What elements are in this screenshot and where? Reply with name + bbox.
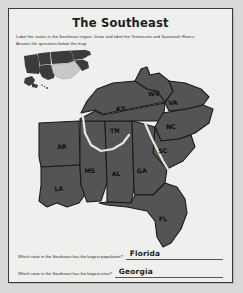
- southeast-map: AR LA MS AL TN KY WV VA NC SC GA FL: [17, 61, 226, 251]
- state-label-FL: FL: [159, 215, 168, 223]
- state-label-AR: AR: [57, 143, 67, 151]
- question-row-2: Which state in the Southeast has the lar…: [9, 266, 232, 278]
- instructions-block: Label the states in the Southeast region…: [9, 34, 232, 47]
- state-label-NC: NC: [166, 123, 177, 131]
- question-1-answer: Florida: [130, 249, 161, 258]
- question-row-1: Which state in the Southeast has the lar…: [9, 248, 232, 260]
- state-label-SC: SC: [158, 147, 168, 155]
- instruction-line-1: Label the states in the Southeast region…: [16, 34, 225, 41]
- state-label-TN: TN: [110, 127, 120, 135]
- questions-section: Which state in the Southeast has the lar…: [9, 248, 232, 283]
- question-2-answer-field[interactable]: Georgia: [115, 266, 223, 278]
- state-label-AL: AL: [111, 170, 120, 177]
- question-1-answer-field[interactable]: Florida: [126, 248, 223, 260]
- page-title: The Southeast: [9, 16, 232, 30]
- state-label-KY: KY: [116, 105, 126, 113]
- question-2-answer: Georgia: [119, 267, 153, 276]
- state-label-LA: LA: [54, 185, 63, 192]
- state-label-GA: GA: [137, 167, 148, 175]
- state-label-WV: WV: [148, 90, 160, 98]
- question-1-prompt: Which state in the Southeast has the lar…: [18, 254, 123, 261]
- state-label-VA: VA: [168, 99, 178, 107]
- state-label-MS: MS: [84, 167, 95, 175]
- question-2-prompt: Which state in the Southeast has the lar…: [18, 271, 112, 278]
- worksheet-sheet: The Southeast Label the states in the So…: [8, 8, 233, 283]
